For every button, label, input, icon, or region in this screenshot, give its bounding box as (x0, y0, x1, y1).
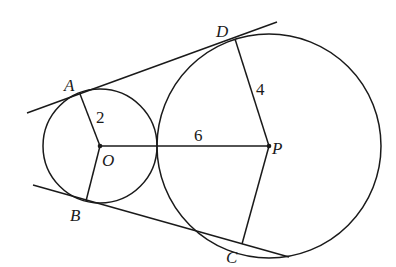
segment-OB (86, 146, 100, 201)
label-radius-PD: 4 (256, 80, 265, 99)
label-P: P (271, 139, 282, 158)
label-O: O (102, 151, 114, 170)
label-C: C (226, 248, 238, 267)
geometry-diagram: A B C D O P 2 4 6 (0, 0, 396, 267)
label-radius-OA: 2 (96, 108, 105, 127)
center-point-O (98, 144, 103, 149)
label-A: A (63, 76, 75, 95)
upper-tangent-line (27, 22, 277, 113)
diagram-canvas: A B C D O P 2 4 6 (0, 0, 396, 267)
label-distance-OP: 6 (194, 126, 203, 145)
center-point-P (267, 144, 272, 149)
label-B: B (70, 206, 81, 225)
label-D: D (215, 22, 229, 41)
segment-PC (242, 146, 269, 244)
